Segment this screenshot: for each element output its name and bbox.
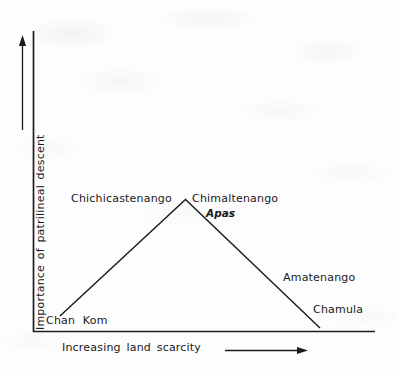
data-line-inverted-v [60, 200, 320, 329]
x-axis-arrow-head [297, 347, 308, 354]
y-axis-title: Importance of patrilineal descent [34, 60, 47, 330]
x-axis-title: Increasing land scarcity [62, 341, 201, 354]
label-chimaltenango: Chimaltenango [192, 192, 278, 206]
label-chichicastenango: Chichicastenango [71, 192, 172, 206]
label-chan-kom: Chan Kom [46, 314, 108, 328]
y-axis-arrow-head [19, 35, 26, 46]
figure-container: Chichicastenango Chimaltenango Apas Amat… [0, 0, 399, 370]
label-apas: Apas [206, 207, 235, 220]
label-chamula: Chamula [313, 303, 363, 317]
label-amatenango: Amatenango [283, 271, 355, 285]
